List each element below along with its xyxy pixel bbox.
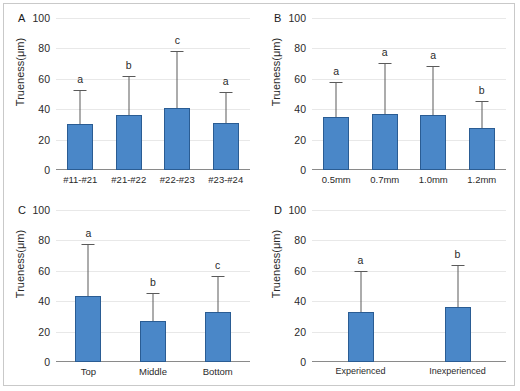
bar-group: abc — [56, 210, 250, 362]
x-axis-tick-label: 0.5mm — [312, 174, 361, 185]
significance-letter: b — [479, 84, 485, 96]
bar-slot: c — [153, 18, 202, 170]
bar[interactable] — [420, 115, 446, 170]
x-axis-labels-d: ExperiencedInexperienced — [312, 366, 506, 376]
error-bar-cap — [354, 271, 367, 272]
x-axis-tick-label: 1.0mm — [409, 174, 458, 185]
y-axis-tick-label: 60 — [38, 73, 50, 85]
bar[interactable] — [205, 312, 231, 362]
y-axis-tick-label: 40 — [38, 103, 50, 115]
x-axis-labels-b: 0.5mm0.7mm1.0mm1.2mm — [312, 174, 506, 185]
y-axis-title-c: Trueness(μm) — [14, 204, 26, 324]
bar[interactable] — [323, 117, 349, 170]
x-axis-tick-label: 1.2mm — [458, 174, 507, 185]
error-bar-cap — [122, 76, 135, 77]
plot-area-b: 020406080100aaab — [312, 18, 506, 170]
bar-slot: c — [185, 210, 250, 362]
bar-slot: b — [458, 18, 507, 170]
bar[interactable] — [445, 307, 471, 362]
error-bar-cap — [211, 276, 224, 277]
y-axis-tick-label: 100 — [288, 204, 306, 216]
chart-panel-c: C Trueness(μm) 020406080100abc TopMiddle… — [4, 196, 260, 387]
error-bar — [153, 294, 154, 321]
bar-slot: b — [121, 210, 186, 362]
significance-letter: a — [223, 75, 229, 87]
x-axis-labels-a: #11-#21#21-#22#22-#23#23-#24 — [56, 174, 250, 185]
error-bar — [80, 91, 81, 124]
bar[interactable] — [67, 124, 93, 170]
x-axis-tick-label: 0.7mm — [361, 174, 410, 185]
y-axis-tick-label: 80 — [38, 42, 50, 54]
chart-panel-b: B Trueness(μm) 020406080100aaab 0.5mm0.7… — [260, 4, 516, 195]
y-axis-tick-label: 20 — [294, 326, 306, 338]
error-bar-cap — [378, 63, 391, 64]
bar[interactable] — [140, 321, 166, 362]
error-bar-cap — [427, 66, 440, 67]
y-axis-tick-label: 60 — [294, 73, 306, 85]
y-axis-tick-label: 100 — [288, 12, 306, 24]
y-axis-title-a: Trueness(μm) — [14, 12, 26, 132]
y-axis-tick-label: 60 — [38, 265, 50, 277]
bar[interactable] — [348, 312, 374, 362]
error-bar-cap — [74, 90, 87, 91]
bar[interactable] — [116, 115, 142, 170]
error-bar — [481, 102, 482, 128]
y-axis-tick-label: 20 — [38, 326, 50, 338]
significance-letter: a — [85, 227, 91, 239]
y-axis-tick-label: 100 — [32, 204, 50, 216]
significance-letter: a — [77, 73, 83, 85]
bar[interactable] — [213, 123, 239, 170]
y-axis-tick-label: 40 — [294, 103, 306, 115]
x-axis-tick-label: Bottom — [185, 366, 250, 377]
y-axis-tick-label: 0 — [300, 356, 306, 368]
error-bar-cap — [451, 265, 464, 266]
x-axis-tick-label: Top — [56, 366, 121, 377]
error-bar-cap — [82, 244, 95, 245]
y-axis-tick-label: 0 — [300, 164, 306, 176]
y-axis-tick-label: 80 — [294, 42, 306, 54]
bar-slot: b — [105, 18, 154, 170]
bar-group: ab — [312, 210, 506, 362]
plot-area-d: 020406080100ab — [312, 210, 506, 362]
bar[interactable] — [164, 108, 190, 170]
x-axis-tick-label: #22-#23 — [153, 174, 202, 185]
x-axis-tick-label: #23-#24 — [202, 174, 251, 185]
plot-area-c: 020406080100abc — [56, 210, 250, 362]
error-bar — [433, 67, 434, 115]
significance-letter: c — [215, 259, 220, 271]
y-axis-title-d: Trueness(μm) — [270, 204, 282, 324]
error-bar — [336, 83, 337, 117]
y-axis-tick-label: 20 — [38, 134, 50, 146]
error-bar-cap — [147, 293, 160, 294]
bar[interactable] — [372, 114, 398, 170]
error-bar-cap — [330, 82, 343, 83]
significance-letter: b — [126, 59, 132, 71]
bar[interactable] — [469, 128, 495, 170]
x-axis-tick-label: Middle — [121, 366, 186, 377]
bar-slot: a — [312, 18, 361, 170]
y-axis-tick-label: 80 — [38, 234, 50, 246]
x-axis-tick-label: #11-#21 — [56, 174, 105, 185]
x-axis-tick-label: Inexperienced — [409, 366, 506, 376]
error-bar — [457, 266, 458, 307]
x-axis-tick-label: #21-#22 — [105, 174, 154, 185]
error-bar-cap — [219, 92, 232, 93]
plot-area-a: 020406080100abca — [56, 18, 250, 170]
error-bar — [88, 245, 89, 296]
figure-frame: A Trueness(μm) 020406080100abca #11-#21#… — [3, 3, 515, 386]
significance-letter: c — [175, 34, 180, 46]
bar[interactable] — [75, 296, 101, 362]
error-bar — [225, 93, 226, 123]
bar-group: aaab — [312, 18, 506, 170]
chart-panel-d: D Trueness(μm) 020406080100ab Experience… — [260, 196, 516, 387]
y-axis-tick-label: 0 — [44, 164, 50, 176]
bar-slot: b — [409, 210, 506, 362]
significance-letter: a — [358, 254, 364, 266]
x-axis-tick-label: Experienced — [312, 366, 409, 376]
chart-panel-a: A Trueness(μm) 020406080100abca #11-#21#… — [4, 4, 260, 195]
error-bar — [360, 272, 361, 312]
bar-slot: a — [202, 18, 251, 170]
y-axis-title-b: Trueness(μm) — [270, 12, 282, 132]
bar-slot: a — [409, 18, 458, 170]
error-bar — [384, 64, 385, 114]
